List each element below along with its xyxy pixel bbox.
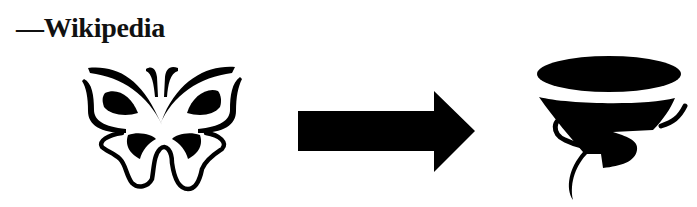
butterfly-icon [60,55,250,207]
right-arrow-icon [297,90,477,174]
tornado-icon [525,42,695,207]
caption-attribution: —Wikipedia [16,13,165,43]
